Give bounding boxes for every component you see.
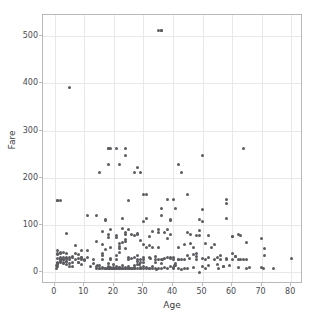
x-tick-label: 40: [167, 287, 177, 296]
scatter-point: [86, 214, 89, 217]
scatter-point: [107, 262, 110, 265]
scatter-point: [157, 231, 160, 234]
y-tick-mark: [39, 224, 42, 225]
scatter-point: [166, 228, 169, 231]
scatter-point: [80, 249, 83, 252]
scatter-point: [151, 230, 154, 233]
scatter-point: [71, 261, 74, 264]
scatter-point: [109, 228, 112, 231]
scatter-plot-figure: 010203040506070800100200300400500 Age Fa…: [0, 0, 324, 324]
scatter-point: [124, 147, 127, 150]
y-axis-label: Fare: [7, 110, 17, 170]
scatter-point: [145, 217, 148, 220]
scatter-point: [160, 207, 163, 210]
scatter-point: [174, 207, 177, 210]
scatter-point: [166, 267, 169, 270]
scatter-point: [107, 163, 110, 166]
scatter-point: [136, 166, 139, 169]
scatter-point: [68, 86, 71, 89]
gridline-horizontal: [43, 178, 301, 179]
x-tick-label: 20: [108, 287, 118, 296]
scatter-point: [98, 171, 101, 174]
scatter-point: [145, 246, 148, 249]
plot-area: [42, 14, 302, 283]
scatter-point: [107, 233, 110, 236]
scatter-point: [242, 147, 245, 150]
scatter-point: [225, 202, 228, 205]
gridline-horizontal: [43, 83, 301, 84]
scatter-point: [186, 193, 189, 196]
scatter-point: [92, 262, 95, 265]
scatter-point: [127, 199, 130, 202]
scatter-point: [124, 240, 127, 243]
scatter-point: [172, 256, 175, 259]
scatter-point: [219, 258, 222, 261]
scatter-point: [71, 265, 74, 268]
y-tick-label: 300: [23, 125, 38, 134]
scatter-point: [207, 234, 210, 237]
gridline-vertical: [262, 15, 263, 282]
scatter-point: [160, 214, 163, 217]
scatter-point: [124, 154, 127, 157]
scatter-point: [121, 227, 124, 230]
y-tick-mark: [39, 271, 42, 272]
scatter-point: [263, 247, 266, 250]
scatter-point: [239, 234, 242, 237]
scatter-point: [115, 147, 118, 150]
scatter-point: [95, 240, 98, 243]
scatter-point: [216, 263, 219, 266]
scatter-point: [248, 266, 251, 269]
scatter-point: [174, 262, 177, 265]
scatter-point: [166, 237, 169, 240]
scatter-point: [207, 256, 210, 259]
scatter-point: [142, 261, 145, 264]
scatter-point: [157, 246, 160, 249]
scatter-point: [65, 252, 68, 255]
scatter-point: [104, 248, 107, 251]
x-tick-label: 50: [196, 287, 206, 296]
scatter-point: [172, 198, 175, 201]
scatter-point: [101, 243, 104, 246]
scatter-point: [213, 243, 216, 246]
scatter-point: [198, 234, 201, 237]
scatter-point: [118, 163, 121, 166]
scatter-point: [228, 264, 231, 267]
scatter-point: [107, 236, 110, 239]
scatter-point: [157, 228, 160, 231]
scatter-point: [142, 256, 145, 259]
scatter-point: [263, 254, 266, 257]
scatter-point: [262, 267, 265, 270]
scatter-point: [188, 257, 191, 260]
scatter-point: [109, 246, 112, 249]
gridline-vertical: [84, 15, 85, 282]
y-tick-label: 500: [23, 31, 38, 40]
scatter-point: [136, 233, 139, 236]
x-tick-label: 30: [137, 287, 147, 296]
scatter-point: [195, 258, 198, 261]
scatter-point: [65, 232, 68, 235]
x-tick-mark: [142, 283, 143, 286]
x-tick-mark: [290, 283, 291, 286]
x-tick-mark: [54, 283, 55, 286]
scatter-point: [86, 249, 89, 252]
scatter-point: [154, 261, 157, 264]
scatter-point: [195, 255, 198, 258]
scatter-point: [245, 241, 248, 244]
gridline-horizontal: [43, 272, 301, 273]
y-tick-label: 100: [23, 220, 38, 229]
x-tick-label: 10: [78, 287, 88, 296]
gridline-vertical: [143, 15, 144, 282]
scatter-point: [213, 258, 216, 261]
scatter-point: [231, 235, 234, 238]
scatter-point: [86, 256, 89, 259]
scatter-point: [118, 251, 121, 254]
scatter-point: [201, 208, 204, 211]
scatter-point: [192, 266, 195, 269]
y-tick-mark: [39, 35, 42, 36]
x-tick-mark: [83, 283, 84, 286]
gridline-vertical: [173, 15, 174, 282]
scatter-point: [177, 246, 180, 249]
scatter-point: [222, 265, 225, 268]
scatter-point: [121, 217, 124, 220]
scatter-point: [237, 266, 240, 269]
